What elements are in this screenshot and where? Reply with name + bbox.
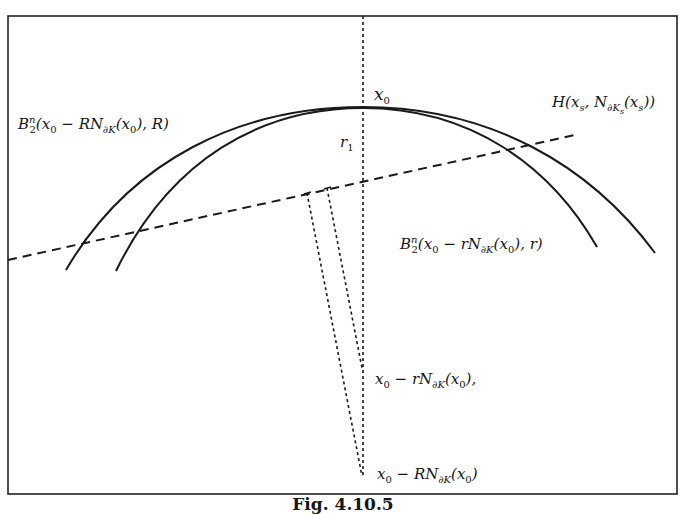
big-ball-body-3: (x (116, 115, 130, 133)
small-ball-body-4: ), r) (514, 235, 542, 253)
label-apex-main: x (374, 84, 384, 104)
label-r1-sub: 1 (347, 142, 353, 153)
hyperplane-body-2-sub-main: ∂K (607, 102, 620, 113)
small-center-body-2: − rN (390, 370, 432, 388)
label-big-center: x0 − RN∂K(x0) (377, 467, 478, 482)
hyperplane-body-3: (x (624, 93, 638, 111)
tick-mark-small (324, 187, 331, 189)
big-ball-prefix: B (18, 115, 29, 133)
small-ball-body-1: (x (418, 235, 432, 253)
big-center-body-4: ) (472, 465, 478, 483)
small-ball-prefix: B (400, 235, 411, 253)
big-ball-body-4: ), R) (136, 115, 169, 133)
label-apex-sub: 0 (384, 95, 390, 106)
small-ball-body-2: − rN (439, 235, 481, 253)
big-center-body-3: (x (451, 465, 465, 483)
figure-frame (8, 16, 677, 494)
big-center-body-2-sub: ∂K (438, 474, 451, 485)
small-ball-body-3: (x (494, 235, 508, 253)
small-ball-body-2-sub: ∂K (481, 244, 494, 255)
big-ball-body-1: (x (36, 115, 50, 133)
label-small-center: x0 − rN∂K(x0), (375, 372, 476, 387)
hyperplane-body-2-sub: ∂Ks (607, 102, 624, 113)
big-center-body-2: − RN (392, 465, 439, 483)
label-big-ball: Bn2(x0 − RN∂K(x0), R) (18, 117, 169, 132)
label-small-ball: Bn2(x0 − rN∂K(x0), r) (400, 237, 543, 252)
tick-mark-big (304, 192, 311, 194)
hyperplane-body-4: )) (643, 93, 655, 111)
small-center-body-4: ), (466, 370, 477, 388)
label-hyperplane: H(xs, N∂Ks(xs)) (552, 95, 655, 112)
big-ball-body-2: − RN (57, 115, 104, 133)
big-ball-body-2-sub: ∂K (103, 124, 116, 135)
dotted-line-to-small-center (327, 188, 362, 368)
small-center-body-2-sub: ∂K (432, 379, 445, 390)
figure-caption: Fig. 4.10.5 (0, 496, 686, 513)
hyperplane-body-1: H(x (552, 93, 579, 111)
hyperplane-body-2: , N (585, 93, 608, 111)
label-r1: r1 (340, 135, 354, 150)
dotted-line-to-big-center (307, 193, 362, 476)
small-center-body-3: (x (445, 370, 459, 388)
label-apex-x0: x0 (374, 86, 390, 103)
